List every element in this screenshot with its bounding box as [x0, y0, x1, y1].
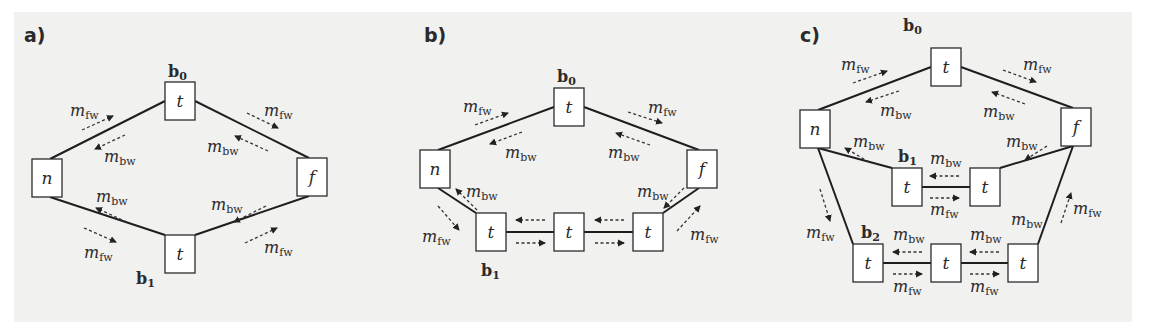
node-label: t [943, 57, 950, 77]
message-label-bw-subscript: bw [226, 203, 243, 216]
message-label-bw: mbw [637, 182, 669, 203]
node-label: t [488, 222, 495, 242]
message-label-fw-subscript: fw [663, 106, 677, 119]
message-label-bw-subscript: bw [520, 151, 537, 164]
branch-label-main: b [557, 67, 568, 86]
node-t2a: t [853, 244, 883, 282]
message-label-bw-main: m [1006, 132, 1021, 151]
node-t0: t [165, 82, 195, 120]
message-label-bw-subscript: bw [985, 233, 1002, 246]
message-label-bw: mbw [608, 143, 640, 164]
message-label-bw-subscript: bw [868, 140, 885, 153]
message-label-bw-subscript: bw [119, 155, 136, 168]
message-label-fw: mfw [841, 55, 870, 76]
node-t2: t [554, 213, 584, 251]
message-label-fw-subscript: fw [437, 235, 451, 248]
message-label-fw: mfw [84, 243, 113, 264]
message-label-bw: mbw [211, 195, 243, 216]
panel-label: b) [424, 24, 446, 46]
edge-n-t2a [818, 148, 853, 244]
node-label: t [904, 177, 911, 197]
message-label-fw: mfw [264, 101, 293, 122]
message-label-fw: mfw [463, 97, 492, 118]
message-label-fw: mfw [806, 223, 835, 244]
node-label: t [566, 222, 573, 242]
message-label-fw-subscript: fw [705, 233, 719, 246]
branch-label-subscript: 0 [914, 24, 922, 37]
panel-b: b)ntftttb0b1mfwmbwmfwmbwmbwmfwmbwmfw [420, 24, 719, 282]
message-label-bw-main: m [970, 225, 985, 244]
message-label-bw-subscript: bw [623, 151, 640, 164]
node-t1: t [476, 213, 506, 251]
message-label-bw: mbw [983, 102, 1015, 123]
branch-label-main: b [136, 269, 147, 288]
message-label-bw: mbw [104, 147, 136, 168]
message-label-bw-main: m [893, 225, 908, 244]
message-label-fw-subscript: fw [908, 285, 922, 298]
message-label-bw-main: m [608, 143, 623, 162]
forward-message-arrow-icon [1061, 193, 1071, 223]
message-label-bw-main: m [207, 137, 222, 156]
message-label-bw-subscript: bw [998, 110, 1015, 123]
branch-label-main: b [481, 261, 492, 280]
message-label-bw: mbw [1006, 132, 1038, 153]
message-label-fw-main: m [806, 223, 821, 242]
branch-label-main: b [168, 62, 179, 81]
message-label-fw-subscript: fw [85, 109, 99, 122]
node-label: t [177, 91, 184, 111]
node-label: t [943, 253, 950, 273]
message-label-bw: mbw [970, 225, 1002, 246]
message-label-fw-main: m [264, 101, 279, 120]
forward-message-arrow-icon [84, 228, 116, 242]
message-label-fw-subscript: fw [279, 109, 293, 122]
message-label-bw-main: m [466, 182, 481, 201]
message-label-fw: mfw [893, 277, 922, 298]
message-label-bw-main: m [104, 147, 119, 166]
message-label-bw: mbw [505, 143, 537, 164]
edge-t2c-f [1038, 146, 1073, 244]
branch-label-subscript: 1 [909, 155, 917, 168]
branch-label-subscript: 1 [492, 269, 500, 282]
message-label-fw-main: m [841, 55, 856, 74]
branch-label-main: b [861, 223, 872, 242]
message-label-fw-subscript: fw [99, 251, 113, 264]
branch-label: b0 [168, 62, 187, 83]
message-label-fw-main: m [463, 97, 478, 116]
branch-label-subscript: 2 [872, 231, 880, 244]
message-label-bw-main: m [637, 182, 652, 201]
node-t2b: t [931, 244, 961, 282]
message-label-fw: mfw [1023, 55, 1052, 76]
panel-c: c)ntftttttb0b1b2mfwmbwmfwmbwmbwmfwmbwmfw… [800, 16, 1102, 298]
factor-graph-diagram: a)ntftb0b1mfwmbwmfwmbwmbwmfwmbwmfwb)ntft… [0, 0, 1150, 332]
message-label-bw-subscript: bw [945, 157, 962, 170]
message-label-bw-main: m [880, 101, 895, 120]
message-label-fw-main: m [264, 238, 279, 257]
message-label-fw: mfw [970, 277, 999, 298]
message-label-bw-main: m [211, 195, 226, 214]
message-label-fw-subscript: fw [1038, 63, 1052, 76]
message-label-fw-main: m [690, 225, 705, 244]
node-label: t [645, 222, 652, 242]
branch-label-subscript: 1 [147, 277, 155, 290]
node-t0: t [931, 48, 961, 86]
message-label-bw: mbw [1011, 210, 1043, 231]
edge-n-t0 [818, 67, 931, 110]
message-label-fw: mfw [264, 238, 293, 259]
forward-message-arrow-icon [438, 206, 459, 230]
message-label-fw-main: m [1023, 55, 1038, 74]
message-label-fw-subscript: fw [945, 208, 959, 221]
message-label-bw: mbw [880, 101, 912, 122]
message-label-bw-main: m [930, 149, 945, 168]
node-label: t [1020, 253, 1027, 273]
message-label-fw-main: m [893, 277, 908, 296]
message-label-bw: mbw [96, 187, 128, 208]
branch-label-subscript: 0 [179, 70, 187, 83]
message-label-fw-subscript: fw [856, 63, 870, 76]
message-label-bw-subscript: bw [652, 190, 669, 203]
message-label-fw: mfw [422, 227, 451, 248]
message-label-bw: mbw [930, 149, 962, 170]
message-label-bw: mbw [466, 182, 498, 203]
message-label-fw: mfw [648, 98, 677, 119]
message-label-bw-main: m [505, 143, 520, 162]
node-label: n [42, 168, 53, 188]
